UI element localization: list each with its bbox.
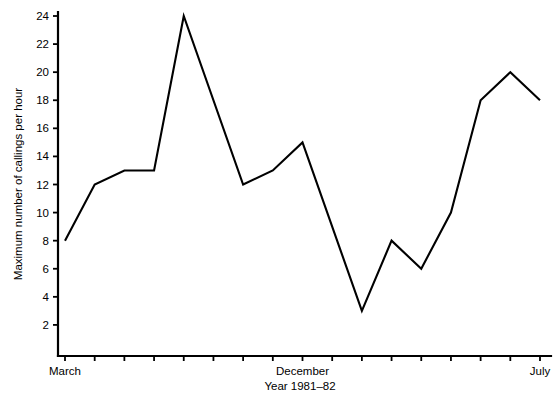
x-axis-title: Year 1981–82 xyxy=(264,380,335,392)
y-tick-label: 20 xyxy=(36,66,49,78)
x-axis-tick-labels: MarchDecemberJuly xyxy=(49,365,550,377)
y-tick-label: 4 xyxy=(43,291,50,303)
y-tick-label: 10 xyxy=(36,207,49,219)
chart-figure: 24681012141618202224 MarchDecemberJuly M… xyxy=(0,0,558,402)
x-tick-label: March xyxy=(49,365,81,377)
x-tick-label: July xyxy=(530,365,551,377)
y-tick-label: 16 xyxy=(36,122,49,134)
y-tick-label: 2 xyxy=(43,319,49,331)
y-tick-label: 8 xyxy=(43,235,49,247)
y-tick-label: 6 xyxy=(43,263,49,275)
x-tick-label: December xyxy=(276,365,329,377)
y-tick-label: 24 xyxy=(36,10,49,22)
y-tick-label: 22 xyxy=(36,38,49,50)
y-tick-label: 18 xyxy=(36,94,49,106)
y-tick-label: 12 xyxy=(36,179,49,191)
y-tick-label: 14 xyxy=(36,150,49,162)
line-chart-plot: 24681012141618202224 MarchDecemberJuly M… xyxy=(0,0,558,402)
y-axis-tick-labels: 24681012141618202224 xyxy=(36,10,49,331)
data-series-line xyxy=(65,16,540,311)
y-axis-title: Maximum number of callings per hour xyxy=(12,88,24,281)
